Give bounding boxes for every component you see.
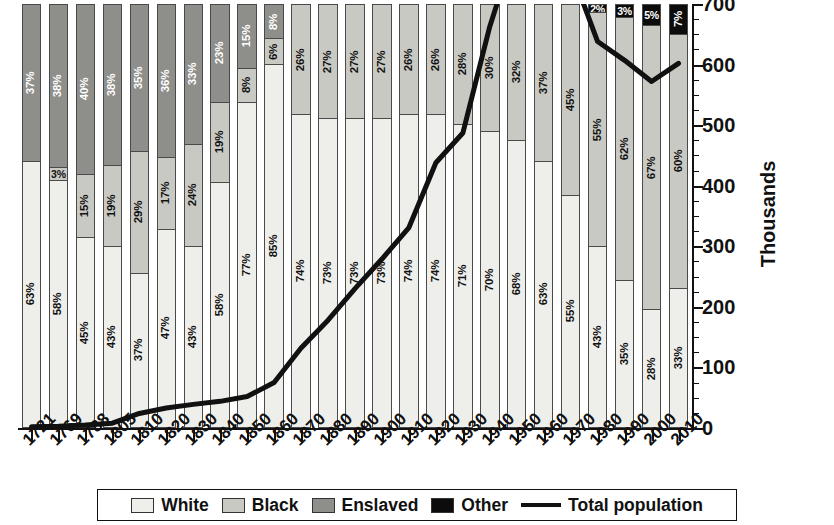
- segment-value-label: 70%: [484, 268, 496, 290]
- segment-value-label: 28%: [457, 53, 469, 75]
- legend-item: Black: [222, 495, 299, 516]
- y-axis-title: Thousands: [757, 161, 780, 268]
- bar-segment-white: 74%: [399, 114, 418, 428]
- bar-column: 27%73%: [318, 4, 337, 428]
- y-tick-label: 300: [702, 235, 735, 258]
- bar-segment-white: 37%: [130, 273, 149, 428]
- bar-segment-black: 17%: [157, 157, 176, 229]
- bar-segment-enslaved: 37%: [22, 4, 41, 161]
- segment-value-label: 27%: [349, 51, 361, 73]
- segment-value-label: 58%: [214, 294, 226, 316]
- bar-segment-other: 3%: [615, 4, 634, 17]
- y-tick-label: 700: [702, 0, 735, 16]
- bar-segment-black: 27%: [318, 4, 337, 118]
- legend-swatch: [431, 498, 454, 513]
- bar-segment-white: 58%: [210, 182, 229, 428]
- bar-segment-white: 28%: [642, 309, 661, 428]
- y-tick-minor: [694, 19, 699, 20]
- y-tick-minor: [694, 171, 699, 172]
- bar-segment-black: 28%: [453, 4, 472, 124]
- legend-swatch: [312, 498, 335, 513]
- legend-label: Enslaved: [342, 495, 419, 516]
- y-tick-minor: [694, 110, 699, 111]
- y-tick-minor: [694, 80, 699, 81]
- bar-segment-white: 43%: [588, 246, 607, 428]
- y-tick-minor: [694, 34, 699, 35]
- bar-stack: 37%63%: [534, 4, 553, 428]
- legend-item: Total population: [521, 495, 703, 516]
- bar-column: 5%67%28%: [642, 4, 661, 428]
- segment-value-label: 26%: [430, 48, 442, 70]
- bar-stack: 26%74%: [291, 4, 310, 428]
- legend-swatch: [222, 498, 245, 513]
- legend-item: Other: [431, 495, 508, 516]
- plot-area: 37%63%38%3%58%40%15%45%38%19%43%35%29%37…: [18, 4, 692, 428]
- bar-segment-other: 7%: [669, 4, 688, 34]
- segment-value-label: 8%: [268, 14, 280, 30]
- y-tick-minor: [694, 231, 699, 232]
- bar-segment-enslaved: 40%: [76, 4, 95, 174]
- bar-segment-enslaved: 23%: [210, 4, 229, 102]
- segment-value-label: 26%: [403, 48, 415, 70]
- bar-stack: 26%74%: [399, 4, 418, 428]
- segment-value-label: 73%: [349, 262, 361, 284]
- segment-value-label: 55%: [565, 300, 577, 322]
- bar-stack: 35%29%37%: [130, 4, 149, 428]
- y-tick-minor: [694, 140, 699, 141]
- bar-column: 3%62%35%: [615, 4, 634, 428]
- bar-segment-black: 8%: [237, 68, 256, 102]
- bar-segment-white: 73%: [372, 118, 391, 428]
- bar-segment-white: 73%: [318, 118, 337, 428]
- bar-segment-enslaved: 15%: [237, 4, 256, 68]
- y-tick-label: 100: [702, 356, 735, 379]
- bar-stack: 37%63%: [22, 4, 41, 428]
- bar-segment-black: 6%: [264, 38, 283, 64]
- y-axis: [692, 4, 702, 428]
- y-tick-minor: [694, 277, 699, 278]
- segment-value-label: 67%: [646, 157, 658, 179]
- bar-segment-white: 71%: [453, 124, 472, 428]
- bar-segment-enslaved: 38%: [103, 4, 122, 165]
- bar-segment-white: 33%: [669, 288, 688, 428]
- bar-segment-white: 68%: [507, 140, 526, 428]
- bar-stack: 3%62%35%: [615, 4, 634, 428]
- segment-value-label: 35%: [619, 343, 631, 365]
- bar-segment-black: 45%: [561, 4, 580, 195]
- bar-column: 8%6%85%: [264, 4, 283, 428]
- bar-segment-black: 37%: [534, 4, 553, 161]
- segment-value-label: 26%: [295, 48, 307, 70]
- segment-value-label: 35%: [134, 67, 146, 89]
- bar-column: 26%74%: [291, 4, 310, 428]
- bar-segment-black: 27%: [372, 4, 391, 118]
- bar-segment-white: 77%: [237, 102, 256, 428]
- bar-stack: 30%70%: [480, 4, 499, 428]
- segment-value-label: 23%: [214, 42, 226, 64]
- y-tick-minor: [694, 337, 699, 338]
- bar-column: 28%71%: [453, 4, 472, 428]
- bar-stack: 28%71%: [453, 4, 472, 428]
- bar-segment-black: 19%: [210, 102, 229, 183]
- bar-segment-white: 35%: [615, 280, 634, 428]
- chart-legend: WhiteBlackEnslavedOtherTotal population: [97, 489, 737, 521]
- y-tick-minor: [694, 49, 699, 50]
- bar-stack: 33%24%43%: [184, 4, 203, 428]
- segment-value-label: 71%: [457, 265, 469, 287]
- bar-column: 2%55%43%: [588, 4, 607, 428]
- bar-segment-white: 43%: [103, 246, 122, 428]
- segment-value-label: 47%: [161, 317, 173, 339]
- bar-segment-black: 26%: [291, 4, 310, 114]
- bar-segment-black: 27%: [345, 4, 364, 118]
- bar-segment-white: 70%: [480, 131, 499, 428]
- segment-value-label: 24%: [187, 184, 199, 206]
- bar-segment-black: 55%: [588, 12, 607, 245]
- bar-stack: 45%55%: [561, 4, 580, 428]
- legend-item: Enslaved: [312, 495, 419, 516]
- bar-column: 15%8%77%: [237, 4, 256, 428]
- bar-segment-other: 5%: [642, 4, 661, 25]
- segment-value-label: 37%: [538, 72, 550, 94]
- bar-segment-white: 47%: [157, 229, 176, 428]
- bar-segment-enslaved: 38%: [49, 4, 68, 167]
- legend-item: White: [131, 495, 209, 516]
- bar-segment-white: 58%: [49, 180, 68, 428]
- bar-stack: 8%6%85%: [264, 4, 283, 428]
